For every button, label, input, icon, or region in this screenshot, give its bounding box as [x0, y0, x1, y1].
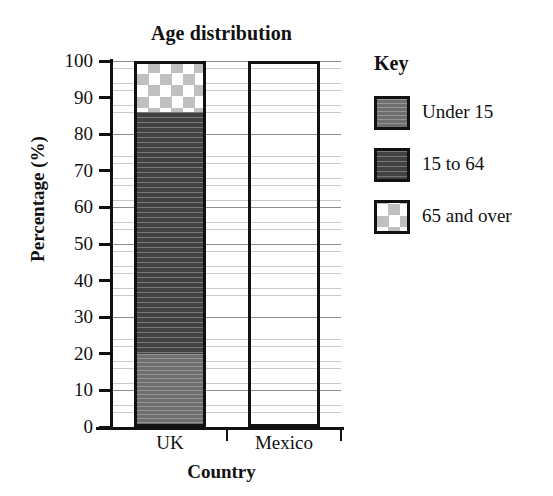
y-axis-tick — [99, 352, 112, 355]
y-axis-tick-label: 70 — [47, 161, 93, 180]
x-axis-category-label-mexico: Mexico — [227, 432, 341, 454]
legend-entry-15-to-64[interactable]: 15 to 64 — [374, 148, 553, 184]
legend-entry-under-15[interactable]: Under 15 — [374, 96, 553, 132]
legend-label: 65 and over — [422, 203, 512, 229]
y-axis-tick-label: 10 — [47, 380, 93, 399]
legend-entry-65-and-over[interactable]: 65 and over — [374, 200, 553, 236]
y-axis-tick-label: 60 — [47, 197, 93, 216]
y-axis-tick-label: 0 — [47, 417, 93, 436]
chart-figure: Age distribution Percentage (%) Country … — [0, 0, 553, 496]
y-axis-title: Percentage (%) — [27, 89, 49, 309]
y-axis-tick-label: 50 — [47, 234, 93, 253]
y-axis-tick-label: 20 — [47, 344, 93, 363]
bar-uk[interactable] — [134, 61, 206, 427]
bar-outline-uk — [134, 61, 206, 427]
x-axis-title: Country — [100, 461, 343, 483]
y-axis-tick — [99, 133, 112, 136]
y-axis-tick — [99, 206, 112, 209]
y-axis-tick — [99, 243, 112, 246]
y-axis-tick-label: 40 — [47, 271, 93, 290]
bar-mexico[interactable] — [248, 61, 320, 427]
y-axis-tick — [99, 389, 112, 392]
legend-swatch-15-to-64 — [374, 148, 410, 182]
y-axis-tick — [99, 60, 112, 63]
y-axis-tick-label: 100 — [47, 51, 93, 70]
legend-title: Key — [374, 52, 408, 75]
legend-label: 15 to 64 — [422, 151, 484, 177]
y-axis-tick — [99, 279, 112, 282]
y-axis-tick — [99, 96, 112, 99]
y-axis-tick — [99, 426, 112, 429]
y-axis-tick — [99, 316, 112, 319]
legend-swatch-65-and-over — [374, 200, 410, 234]
legend-swatch-under-15 — [374, 96, 410, 130]
y-axis-tick-label: 80 — [47, 124, 93, 143]
chart-title: Age distribution — [100, 22, 343, 45]
y-axis-tick-label: 30 — [47, 307, 93, 326]
x-axis-line — [96, 427, 344, 430]
y-axis-tick-label: 90 — [47, 88, 93, 107]
legend-label: Under 15 — [422, 99, 493, 125]
y-axis-tick — [99, 169, 112, 172]
x-axis-category-label-uk: UK — [113, 432, 227, 454]
